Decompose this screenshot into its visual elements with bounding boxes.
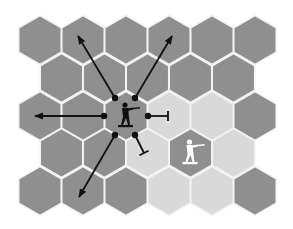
direction-dot xyxy=(132,95,138,101)
direction-dot xyxy=(112,95,118,101)
direction-dot xyxy=(112,132,118,138)
hex-board xyxy=(0,0,293,229)
direction-dot xyxy=(132,132,138,138)
direction-dot xyxy=(145,113,151,119)
direction-dot xyxy=(101,113,107,119)
